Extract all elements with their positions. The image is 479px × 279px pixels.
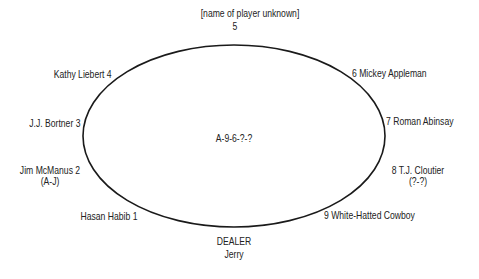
seat-6-name: 6 Mickey Appleman <box>352 67 427 79</box>
dealer-name: Jerry <box>209 248 258 260</box>
seat-2-hand: (A-J) <box>17 175 83 187</box>
seat-4-name: Kathy Liebert 4 <box>54 68 112 80</box>
seat-1-name: Hasan Habib 1 <box>80 210 137 222</box>
board-cards: A-9-6-?-? <box>201 132 267 144</box>
seat-8-hand: (?-?) <box>384 175 453 187</box>
seat-3-name: J.J. Bortner 3 <box>29 117 80 129</box>
seat-9-name: 9 White-Hatted Cowboy <box>324 209 415 221</box>
dealer-label: DEALER <box>209 235 258 247</box>
seat-5-number: 5 <box>227 20 243 32</box>
seat-7-name: 7 Roman Abinsay <box>386 115 453 127</box>
seat-5-name: [name of player unknown] <box>197 7 304 19</box>
